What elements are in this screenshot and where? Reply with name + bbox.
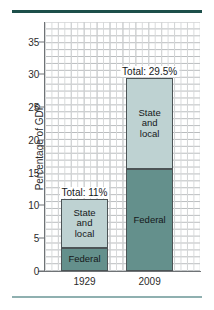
y-axis-tick-label: 25	[28, 102, 39, 113]
y-axis-tick-mark	[39, 238, 45, 239]
y-axis-tick-label: 35	[28, 36, 39, 47]
y-axis-tick-label: 20	[28, 134, 39, 145]
bar-segment-state-and-local-2009[interactable]: Stateandlocal	[126, 78, 173, 170]
bottom-divider-rule	[12, 296, 202, 298]
bar-segment-label-federal: Federal	[67, 254, 101, 265]
top-divider-rule	[12, 10, 202, 13]
x-axis-line	[38, 271, 201, 272]
y-axis-tick-label: 30	[28, 69, 39, 80]
y-axis-tick-mark	[39, 74, 45, 75]
x-axis-tick-label-1929: 1929	[73, 276, 95, 287]
chart-figure: Percentage of GDP 05101520253035 Statean…	[0, 0, 214, 310]
bar-segment-federal-1929[interactable]: Federal	[61, 248, 108, 271]
plot-area: 05101520253035 StateandlocalFederalTotal…	[45, 22, 200, 271]
y-axis-tick-label: 15	[28, 167, 39, 178]
bar-segment-label-state-and-local: Stateandlocal	[138, 108, 162, 140]
total-annotation-1929: Total: 11%	[60, 187, 110, 198]
y-axis-tick-label: 10	[28, 200, 39, 211]
y-axis-tick-mark	[39, 172, 45, 173]
y-axis-tick-mark	[39, 41, 45, 42]
y-axis-tick-mark	[39, 139, 45, 140]
total-annotation-2009: Total: 29.5%	[120, 66, 179, 77]
stacked-bar-2009[interactable]: StateandlocalFederal	[126, 78, 173, 271]
x-axis-tick-label-2009: 2009	[139, 276, 161, 287]
bar-segment-federal-2009[interactable]: Federal	[126, 169, 173, 271]
y-axis-tick-mark	[39, 205, 45, 206]
bar-segment-label-state-and-local: Stateandlocal	[72, 208, 96, 240]
stacked-bar-1929[interactable]: StateandlocalFederal	[61, 199, 108, 271]
bar-segment-state-and-local-1929[interactable]: Stateandlocal	[61, 199, 108, 248]
y-axis-tick-mark	[39, 271, 45, 272]
y-axis-title-container: Percentage of GDP	[2, 22, 16, 271]
bar-segment-label-federal: Federal	[133, 215, 167, 226]
y-axis-tick-mark	[39, 107, 45, 108]
